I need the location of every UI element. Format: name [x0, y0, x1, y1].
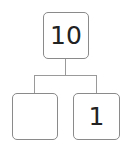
- part-right-value: 1: [89, 102, 105, 131]
- connector-horizontal: [34, 75, 97, 76]
- whole-value: 10: [50, 21, 82, 50]
- connector-vertical-top: [65, 59, 66, 76]
- part-box-left[interactable]: [12, 93, 58, 140]
- connector-left-drop: [34, 75, 35, 94]
- whole-box: 10: [43, 12, 89, 59]
- part-box-right: 1: [73, 93, 120, 140]
- connector-right-drop: [96, 75, 97, 94]
